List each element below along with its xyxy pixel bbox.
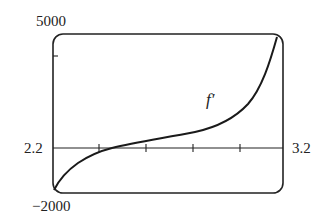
f-prime-curve [54,37,277,190]
plot-frame [53,34,283,193]
plot-area [0,0,327,220]
